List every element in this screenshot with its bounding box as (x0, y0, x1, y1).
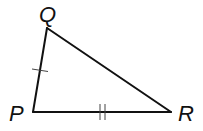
vertex-label-p: P (9, 101, 24, 126)
vertex-label-r: R (178, 101, 194, 126)
vertex-label-q: Q (39, 2, 56, 27)
triangle-diagram: Q P R (0, 0, 203, 131)
side-qr (47, 28, 171, 112)
